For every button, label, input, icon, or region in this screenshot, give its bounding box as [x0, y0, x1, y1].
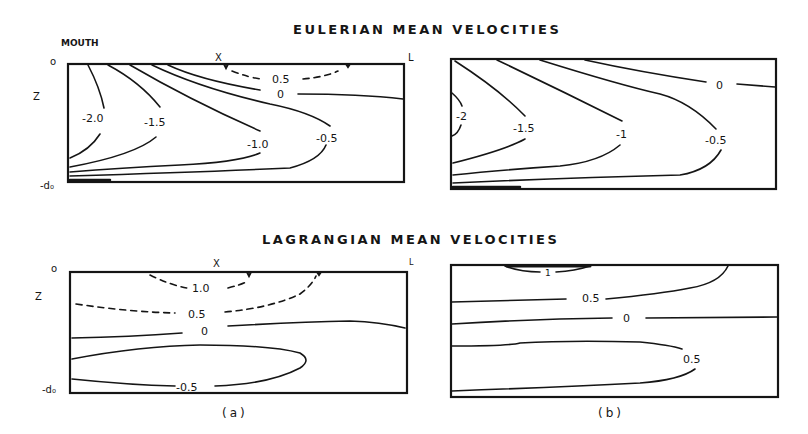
svg-text:0.5: 0.5: [272, 73, 290, 86]
panel-lagrangian-b: 0.5 0 0.5 1: [451, 265, 778, 397]
svg-text:0.5: 0.5: [582, 292, 600, 305]
svg-text:0: 0: [623, 312, 630, 325]
svg-text:0: 0: [277, 88, 284, 101]
svg-text:-1.5: -1.5: [144, 116, 165, 129]
frame-eulerian-b: [451, 59, 776, 189]
eulerian-b-labels: 0 -2 -1.5 -1 -0.5: [456, 79, 726, 147]
svg-text:-0.5: -0.5: [176, 381, 197, 394]
svg-text:0.5: 0.5: [683, 353, 701, 366]
svg-text:-2: -2: [456, 110, 467, 123]
svg-text:1: 1: [545, 268, 551, 278]
panel-eulerian-a: 0.5 0 -2.0 -1.5 -1.0 -0.5: [68, 64, 404, 182]
frame-lagrangian-b: [451, 265, 778, 397]
svg-text:-1: -1: [616, 128, 627, 141]
svg-text:0.5: 0.5: [188, 308, 206, 321]
frame-eulerian-a: [68, 64, 404, 182]
contour-diagram: 0.5 0 -2.0 -1.5 -1.0 -0.5: [0, 0, 808, 434]
svg-text:0: 0: [201, 325, 208, 338]
frame-lagrangian-a: [70, 272, 407, 393]
svg-text:-1.5: -1.5: [513, 122, 534, 135]
svg-text:-2.0: -2.0: [82, 112, 103, 125]
panel-eulerian-b: 0 -2 -1.5 -1 -0.5: [451, 59, 776, 189]
svg-text:-0.5: -0.5: [316, 132, 337, 145]
svg-text:0: 0: [716, 79, 723, 92]
svg-text:-0.5: -0.5: [705, 134, 726, 147]
panel-lagrangian-a: 1.0 0.5 0 -0.5: [70, 272, 407, 394]
svg-text:-1.0: -1.0: [247, 138, 268, 151]
lagrangian-a-labels: 1.0 0.5 0 -0.5: [176, 282, 210, 394]
svg-text:1.0: 1.0: [192, 282, 210, 295]
